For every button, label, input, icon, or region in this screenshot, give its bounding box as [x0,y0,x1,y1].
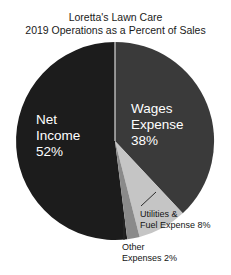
net-income-label-line2: Income [36,128,80,143]
utilities-label-line2: Fuel Expense 8% [140,220,211,230]
slice-label-other-expenses: Other Expenses 2% [122,242,177,263]
slice-label-utilities-fuel-expense: Utilities & Fuel Expense 8% [140,209,211,230]
net-income-label-line1: Net [36,112,57,127]
wages-label-line2: Expense [131,117,184,132]
utilities-label-line1: Utilities & [140,209,178,219]
other-label-line1: Other [122,242,145,252]
pie-svg: Net Income 52% Wages Expense 38% Utiliti… [0,0,231,275]
wages-label-value: 38% [131,133,158,148]
other-label-line2: Expenses 2% [122,253,177,263]
net-income-label-value: 52% [36,144,63,159]
wages-label-line1: Wages [131,101,173,116]
pie-chart-figure: Loretta's Lawn Care 2019 Operations as a… [0,0,231,275]
